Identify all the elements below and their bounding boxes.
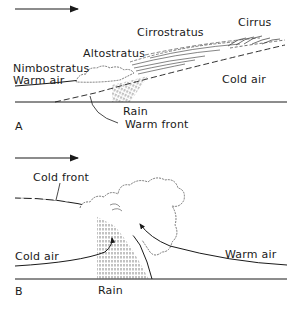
label-altostratus: Altostratus (83, 48, 145, 59)
label-warm-air-a: Warm air (13, 75, 64, 86)
label-nimbostratus: Nimbostratus (13, 63, 89, 74)
panel-letter-a: A (15, 121, 23, 132)
label-rain-a: Rain (123, 106, 148, 117)
frontal-systems-diagram (0, 0, 300, 312)
panel-letter-b: B (15, 286, 23, 297)
label-cirrus: Cirrus (238, 17, 272, 28)
label-rain-b: Rain (98, 285, 123, 296)
label-cold-front: Cold front (33, 172, 89, 183)
cold-front-leader-line (56, 183, 60, 200)
label-warm-air-b: Warm air (225, 249, 276, 260)
cirrus-wisps (228, 36, 285, 48)
label-cold-air-a: Cold air (222, 74, 266, 85)
label-cold-air-b: Cold air (15, 251, 59, 262)
label-warm-front: Warm front (125, 119, 189, 130)
label-cirrostratus: Cirrostratus (137, 27, 204, 38)
cumulonimbus-cloud (80, 178, 184, 255)
